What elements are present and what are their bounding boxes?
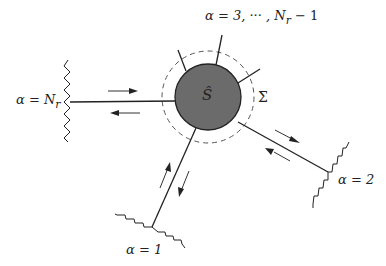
label-subscript: r xyxy=(55,98,60,111)
diagram-canvas xyxy=(0,0,386,266)
reservoir-alpha-Nr xyxy=(64,60,70,142)
label-alpha-2: α = 2 xyxy=(338,172,374,187)
label-text: α = 3, ··· , N xyxy=(205,8,286,23)
label-scatterer-S: Ŝ xyxy=(202,86,212,104)
arrow-out-icon xyxy=(110,110,119,116)
lead-alpha-2 xyxy=(238,122,328,172)
reservoir-alpha-1-left xyxy=(115,214,152,227)
lead-alpha-Nr xyxy=(70,101,175,102)
arrow-out-icon xyxy=(289,136,300,143)
lead-top-2 xyxy=(216,35,222,65)
lead-alpha-1 xyxy=(152,128,196,227)
lead-top-3 xyxy=(238,69,260,83)
label-sigma: Σ xyxy=(258,89,268,105)
label-alpha-Nr: α = Nr xyxy=(16,92,61,111)
lead-top-1 xyxy=(178,50,186,71)
scattering-diagram: α = 3, ··· , Nr − 1 α = Nr α = 2 α = 1 Ŝ… xyxy=(0,0,386,266)
label-alpha-1: α = 1 xyxy=(126,242,162,257)
label-text: α = N xyxy=(16,92,55,107)
reservoir-alpha-2-upper xyxy=(328,142,349,172)
label-suffix: − 1 xyxy=(291,8,318,23)
label-alpha-3-to-Nr-minus-1: α = 3, ··· , Nr − 1 xyxy=(205,8,318,27)
label-text: α = 1 xyxy=(126,242,162,257)
arrow-in-icon xyxy=(165,162,171,172)
arrow-in-icon xyxy=(265,148,274,155)
reservoir-alpha-2-lower xyxy=(313,172,328,208)
arrow-in-icon xyxy=(129,88,138,94)
arrow-out-icon xyxy=(178,187,184,197)
label-text: α = 2 xyxy=(338,172,374,187)
